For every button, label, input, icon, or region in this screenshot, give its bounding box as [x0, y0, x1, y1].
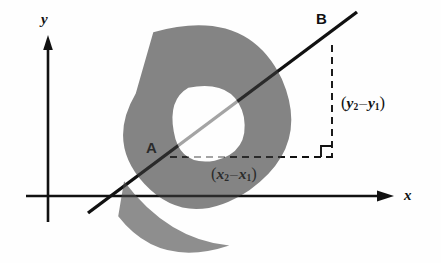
scan-speck-artifact	[0, 0, 441, 263]
slope-diagram-figure: y x A B (y2–y1) (x2–x1)	[0, 0, 441, 263]
